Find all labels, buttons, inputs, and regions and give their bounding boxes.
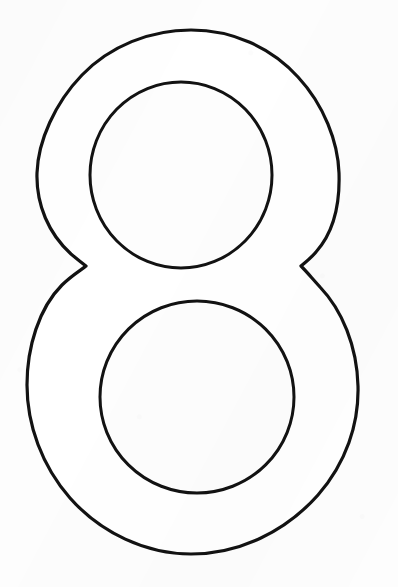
upper-counter-circle [90,82,272,268]
lower-counter-circle [100,301,294,493]
numeral-eight-outer-contour [27,30,358,554]
coloring-page-canvas [0,0,398,587]
numeral-eight-outline-group [27,30,358,554]
numeral-eight-figure [0,0,398,587]
